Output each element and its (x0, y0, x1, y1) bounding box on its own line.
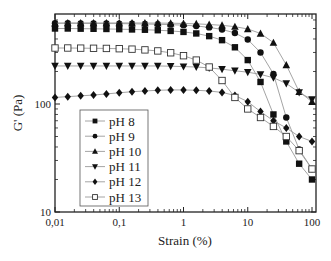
y-axis-title: G' (Pa) (10, 95, 25, 132)
x-tick-label: 10 (242, 216, 254, 228)
legend-label: pH 10 (109, 144, 141, 159)
legend-label: pH 8 (109, 114, 135, 129)
chart: 0,010,111010010100 pH 8pH 9pH 10pH 11pH … (0, 0, 331, 261)
legend: pH 8pH 9pH 10pH 11pH 12pH 13 (80, 110, 148, 206)
x-tick-label: 0,1 (112, 216, 126, 228)
x-axis-title: Strain (%) (158, 233, 212, 248)
legend-label: pH 13 (109, 190, 141, 205)
y-tick-label: 10 (40, 206, 52, 218)
legend-label: pH 9 (109, 129, 135, 144)
y-tick-label: 100 (35, 98, 52, 110)
legend-label: pH 11 (109, 159, 141, 174)
x-tick-label: 1 (181, 216, 187, 228)
x-tick-label: 100 (304, 216, 321, 228)
legend-label: pH 12 (109, 174, 141, 189)
